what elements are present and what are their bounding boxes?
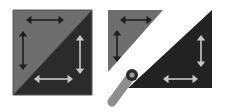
figure-canvas: [0, 0, 226, 112]
joined-square: [13, 10, 92, 95]
top-horizontal-arrow-shaft: [29, 19, 61, 21]
right-vertical-arrow-shaft: [200, 38, 202, 64]
right-vertical-arrow-shaft: [79, 38, 81, 71]
bottom-horizontal-arrow-shaft: [37, 78, 70, 80]
left-vertical-arrow-shaft: [22, 34, 24, 67]
bottom-horizontal-arrow-shaft: [166, 78, 195, 80]
pivot-ring-inner[interactable]: [129, 72, 134, 77]
left-vertical-arrow-shaft: [116, 33, 118, 59]
figure-root: [0, 0, 226, 112]
top-horizontal-arrow-shaft: [123, 19, 149, 21]
